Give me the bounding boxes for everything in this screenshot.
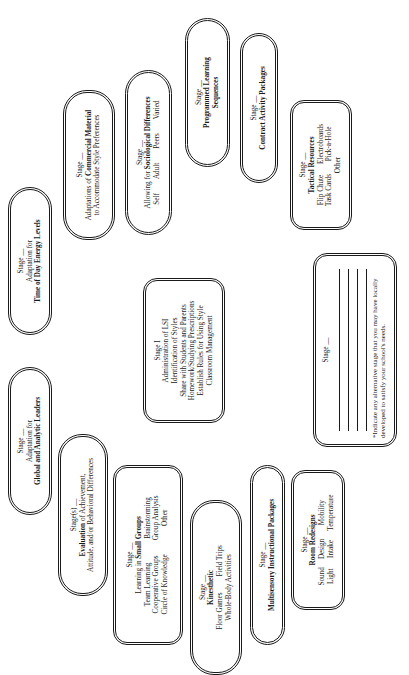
stage-kinesthetic: Stage __ Kinesthetic Floor Games Field T… [190,500,242,675]
stage-label: Stage __ [299,153,308,178]
stage-room-redesigns: Stage __ Room Redesigns Sound Design Mob… [291,470,345,610]
footnote: *Indicate any alternative stage that you… [371,262,389,438]
stage-line: Share with Students and Parents [180,304,189,397]
stage-line: Homework/Studying Prescriptions [188,301,197,401]
item: Group Analysis [152,495,161,540]
item: Brainstorming [144,495,153,540]
stage-label: Stage __ [17,429,26,454]
stage-line: Establish Rules for Using Style [197,305,206,395]
title-bold: Evaluation [79,523,87,557]
stage-label: Stage __ [17,249,26,274]
stage-global-analytic: Stage __ Adaptation for Global and Analy… [8,367,52,515]
stage-line: Whole-Body Activities [225,554,234,620]
stage-title: Multisensory Instructional Packages [268,499,277,611]
stage-label: Stage __ [136,140,145,165]
item: Cooperative Groups [152,554,161,614]
stage-label: Stage __ [76,153,85,178]
stage-items: Team Learning Brainstorming Cooperative … [144,495,170,614]
stage-title: Learning in Small Groups [135,516,144,594]
item: Sound [318,567,327,585]
stage-label: Stage(s) __ [70,499,79,532]
stage-items: Flip Chute Electroboards Task Cards Pick… [317,124,334,206]
stage-label: Stage __ [301,528,310,553]
stage-line: Classroom Management [206,315,215,385]
item: Adult [153,163,162,179]
stage-sociological: Stage __ Allowing for Sociological Diffe… [125,70,172,235]
stage-label: Stage __ [126,543,135,568]
stage-alternative: Stage __ *Indicate any alternative stage… [313,253,397,447]
stage-title: Evaluation of Achievement, [79,474,88,557]
stage-label: Stage __ [250,96,259,121]
title-bold: Small Groups [135,516,143,558]
blank-line [331,269,340,431]
item: Varied [153,100,162,119]
stages-diagram: Stage __ Adaptation for Time of Day Ener… [0,0,409,675]
stage-subtitle: to Accommodate Style Preferences [93,115,102,216]
blank-line [349,269,358,431]
stage-multisensory: Stage __ Multisensory Instructional Pack… [250,465,285,645]
stage-items: Floor Games Field Trips [216,545,225,630]
stage-subtitle: Adaptation for [26,240,35,282]
stage-time-of-day: Stage __ Adaptation for Time of Day Ener… [8,187,52,335]
item: Other [161,495,170,540]
stage-label: Stage __ [322,338,331,363]
stage-tactical-resources: Stage __ Tactical Resources Flip Chute E… [290,100,352,230]
item: Flip Chute [317,174,326,206]
stage-subtitle: Attitude, and/or Behavioral Differences [87,458,96,572]
stage-programmed-learning: Stage __ Programmed Learning Sequences [185,18,230,167]
item-other: Other [334,157,343,173]
item: Circle of Knowledge [161,554,170,614]
item: Pick-a-Hole [325,124,334,164]
item: Mobility [318,495,327,531]
stage-title: Allowing for Sociological Differences [144,97,153,209]
stage-title: Contract Activity Packages [259,66,268,149]
stage-items: Sound Design Mobility Light Intake Tempe… [318,495,335,586]
stage-title-line2: Sequences [212,77,221,109]
stage-subtitle: Adaptation for [26,420,35,462]
blank-line [340,269,349,431]
stage-items: Self Adult Peers Varied [153,100,162,204]
stage-line: Administration of LSI [162,319,171,383]
stage-label: Stage __ [195,80,204,105]
stage-contract-activity: Stage __ Contract Activity Packages [240,33,278,183]
item: Design [318,539,327,559]
item: Task Cards [325,174,334,206]
stage-title: Time of Day Energy Levels [34,219,43,302]
title-prefix: Learning in [135,559,143,594]
item: Electroboards [317,124,326,164]
stage-commercial-material: Stage __ Adaptations of Commercial Mater… [63,90,115,240]
title-prefix: Allowing for [144,169,152,208]
stage-evaluation: Stage(s) __ Evaluation of Achievement, A… [58,434,108,596]
title-bold: Commercial Material [85,110,93,176]
blank-line [358,269,367,431]
stage-title: Tactical Resources [308,137,317,194]
item: Peers [153,133,162,149]
title-bold: Sociological Differences [144,97,152,170]
stage-title: Kinesthetic [207,570,216,605]
title-prefix: Adaptations of [85,176,93,220]
title-rest: of Achievement, [79,474,87,523]
item: Intake [327,539,336,559]
item: Temperature [327,495,336,531]
stage-title: Room Redesigns [309,515,318,566]
item: Team Learning [144,554,153,614]
item: Self [153,193,162,205]
stage-label: Stage __ [259,543,268,568]
item: Floor Games [216,593,225,630]
stage-one: Stage I Administration of LSI Identifica… [143,278,225,423]
stage-label: Stage I [154,340,163,360]
stage-line: Identification of Styles [171,318,180,384]
item: Field Trips [216,545,225,576]
item: Light [327,567,336,585]
stage-title: Programmed Learning [203,57,212,128]
stage-label: Stage __ [199,575,208,600]
stage-title: Global and Analytic Leaders [34,397,43,485]
stage-title: Adaptations of Commercial Material [85,110,94,221]
stage-small-groups: Stage __ Learning in Small Groups Team L… [113,465,183,645]
